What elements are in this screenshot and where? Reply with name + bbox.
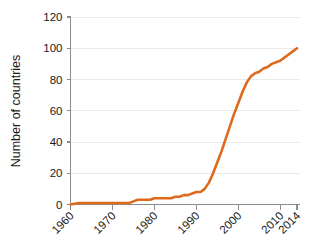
y-axis-tick-label: 120 <box>43 11 62 23</box>
y-axis-tick-label: 100 <box>43 42 62 54</box>
chart-container: 020406080100120 196019701980199020002010… <box>0 0 309 251</box>
y-axis-tick-label: 80 <box>50 74 63 86</box>
y-axis-title: Number of countries <box>9 55 23 168</box>
line-chart: 020406080100120 196019701980199020002010… <box>0 0 309 251</box>
y-axis-tick-label: 40 <box>50 136 63 148</box>
y-axis-tick-label: 0 <box>56 199 62 211</box>
y-axis-tick-label: 60 <box>50 105 63 117</box>
y-axis-tick-label: 20 <box>50 167 63 179</box>
